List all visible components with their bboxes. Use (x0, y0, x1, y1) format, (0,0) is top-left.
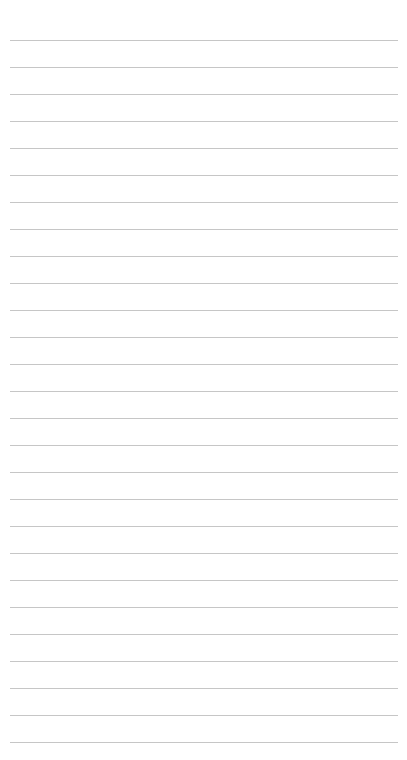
ruled-line (10, 553, 398, 554)
ruled-line (10, 661, 398, 662)
ruled-line (10, 310, 398, 311)
ruled-line (10, 202, 398, 203)
ruled-line (10, 418, 398, 419)
ruled-line (10, 148, 398, 149)
ruled-line (10, 688, 398, 689)
ruled-line (10, 283, 398, 284)
ruled-line (10, 94, 398, 95)
ruled-line (10, 391, 398, 392)
ruled-line (10, 445, 398, 446)
ruled-line (10, 607, 398, 608)
ruled-line (10, 256, 398, 257)
ruled-line (10, 364, 398, 365)
ruled-line (10, 742, 398, 743)
lined-paper (0, 0, 407, 760)
ruled-line (10, 337, 398, 338)
ruled-line (10, 40, 398, 41)
ruled-line (10, 67, 398, 68)
ruled-line (10, 580, 398, 581)
ruled-line (10, 229, 398, 230)
ruled-line (10, 472, 398, 473)
ruled-line (10, 526, 398, 527)
ruled-line (10, 715, 398, 716)
ruled-line (10, 121, 398, 122)
ruled-line (10, 634, 398, 635)
ruled-line (10, 175, 398, 176)
ruled-line (10, 499, 398, 500)
